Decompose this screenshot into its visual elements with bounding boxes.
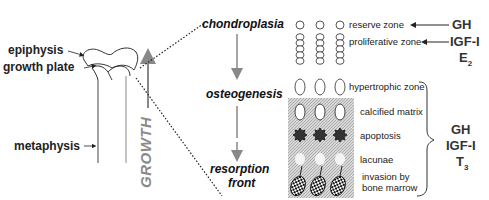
hormone-brace (417, 82, 434, 196)
hormone-igf-bottom: IGF-I (446, 138, 476, 154)
zoom-line-top (140, 24, 203, 68)
hormone-gh-top: GH (452, 17, 472, 33)
metaphysis-label: metaphysis (14, 139, 80, 153)
hormone-t3: T3 (456, 154, 468, 176)
zone-reserve: reserve zone (349, 19, 404, 30)
hormone-e2: E2 (459, 50, 472, 72)
epiphysis-label: epiphysis (8, 43, 63, 57)
zone-apoptosis: apoptosis (360, 130, 401, 141)
zone-calcified-matrix: calcified matrix (360, 106, 423, 117)
growth-plate-label: growth plate (3, 60, 74, 74)
zone-invasion-line2: bone marrow (362, 182, 417, 193)
stage-chondroplasia: chondroplasia (202, 17, 284, 31)
hormone-igf-top: IGF-I (450, 34, 480, 50)
reserve-zone-cells (296, 21, 344, 29)
epiphysis-pointer (68, 51, 82, 55)
stage-osteogenesis: osteogenesis (206, 87, 283, 101)
zone-lacunae: lacunae (360, 154, 393, 165)
proliferative-zone-cells (296, 34, 344, 65)
apoptosis-cells (293, 128, 347, 142)
lacunae-cells (295, 153, 345, 165)
zone-proliferative: proliferative zone (349, 36, 421, 47)
hormone-gh-bottom: GH (451, 122, 471, 138)
zone-hypertrophic: hypertrophic zone (349, 81, 425, 92)
stage-resorption-line1: resorption (210, 162, 269, 176)
stage-resorption-line2: front (228, 176, 255, 190)
hypertrophic-zone-cells (295, 79, 345, 95)
calcified-matrix-cells (295, 104, 345, 120)
growth-label: GROWTH (137, 117, 154, 188)
zone-invasion-line1: invasion by (362, 171, 410, 182)
